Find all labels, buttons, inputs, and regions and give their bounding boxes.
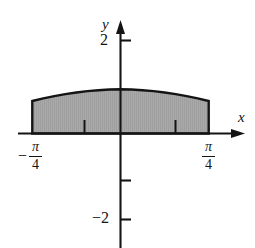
fraction-denominator: 4 [30,157,41,173]
y-tick-label-2: 2 [100,32,108,48]
fraction-negative-pi-over-4: π 4 [29,140,42,173]
plot-canvas [0,0,255,248]
figure-container: y x 2 −2 − π 4 π 4 [0,0,255,248]
fraction-numerator: π [203,140,214,156]
y-tick-label-negative-2: −2 [92,210,109,226]
y-axis-arrow-icon [116,20,125,34]
fraction-denominator: 4 [203,157,214,173]
y-axis-label: y [102,17,109,32]
x-axis-arrow-icon [231,129,245,138]
x-tick-label-negative-pi-over-4: − π 4 [18,140,42,173]
fraction-numerator: π [30,140,41,156]
minus-sign: − [18,147,27,165]
fraction-pi-over-4: π 4 [202,140,215,173]
x-axis-label: x [238,110,245,125]
x-tick-label-pi-over-4: π 4 [202,140,215,173]
